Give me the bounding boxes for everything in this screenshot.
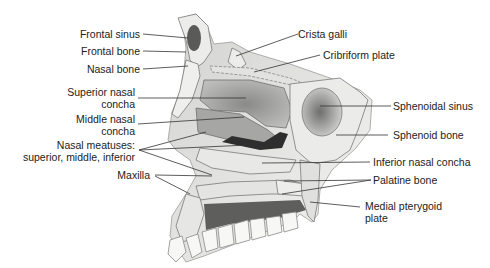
label-nasal-bone: Nasal bone	[87, 63, 140, 75]
label-crista-galli: Crista galli	[298, 28, 347, 40]
label-palatine-bone: Palatine bone	[373, 174, 437, 186]
label-frontal-sinus: Frontal sinus	[80, 28, 140, 40]
label-line-2: concha	[76, 125, 135, 137]
label-line-1: Middle nasal	[76, 113, 135, 125]
sphenoidal-sinus-shape	[302, 88, 342, 136]
label-nasal-meatuses: Nasal meatuses: superior, middle, inferi…	[23, 139, 135, 163]
nasal-cavity-diagram: Frontal sinus Frontal bone Nasal bone Su…	[0, 0, 490, 268]
label-line-1: Nasal meatuses:	[23, 139, 135, 151]
label-medial-pterygoid-plate: Medial pterygoid plate	[365, 200, 442, 224]
label-sphenoidal-sinus: Sphenoidal sinus	[393, 100, 473, 112]
label-cribriform-plate: Cribriform plate	[323, 49, 395, 61]
label-line-1: Superior nasal	[67, 86, 135, 98]
label-line-2: superior, middle, inferior	[23, 151, 135, 163]
label-line-2: concha	[67, 98, 135, 110]
label-line-1: Medial pterygoid	[365, 200, 442, 212]
label-line-2: plate	[365, 212, 442, 224]
label-maxilla: Maxilla	[117, 169, 150, 181]
label-inferior-nasal-concha: Inferior nasal concha	[373, 156, 470, 168]
frontal-sinus-shape	[187, 25, 201, 51]
label-sphenoid-bone: Sphenoid bone	[393, 129, 464, 141]
label-superior-nasal-concha: Superior nasal concha	[67, 86, 135, 110]
label-frontal-bone: Frontal bone	[81, 45, 140, 57]
label-middle-nasal-concha: Middle nasal concha	[76, 113, 135, 137]
